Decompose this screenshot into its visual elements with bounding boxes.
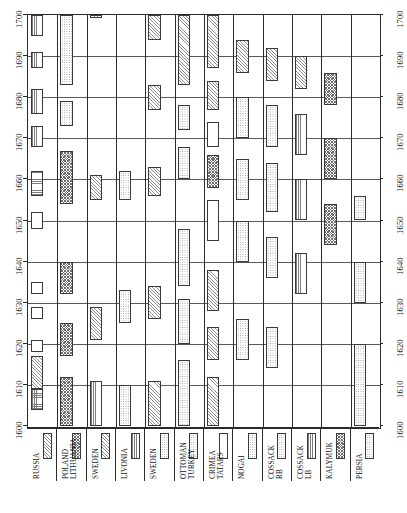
legend-item-russia[interactable]: RUSSIA: [27, 427, 56, 513]
legend-top-rule: [27, 427, 379, 428]
legend-item-sweden[interactable]: SWEDEN: [144, 427, 173, 513]
legend-separator: [350, 427, 351, 481]
year-tick-label-right-1650: 1650: [395, 216, 405, 234]
legend-label-line2: RB: [277, 469, 285, 479]
legend-separator: [262, 427, 263, 481]
legend-separator: [144, 427, 145, 481]
legend-label-line2: LB: [306, 470, 314, 480]
legend-swatch-diagonal-hatch: [43, 433, 52, 459]
legend-item-kalymuk[interactable]: KALYMUK: [320, 427, 349, 513]
legend-separator: [203, 427, 204, 481]
legend-label: LIVONIA: [122, 448, 130, 479]
legend-item-nogai[interactable]: NOGAI: [232, 427, 261, 513]
legend-label-line2: TURKEY: [189, 449, 197, 479]
bar: [354, 196, 366, 221]
legend-label: PERSIA: [357, 453, 365, 479]
legend-swatch-diagonal-hatch: [101, 433, 110, 459]
bar: [354, 344, 366, 426]
legend-item-ottoman[interactable]: OTTOMANTURKEY: [174, 427, 203, 513]
legend-separator: [86, 427, 87, 481]
year-tick-label-right-1620: 1620: [395, 339, 405, 357]
year-tick-label-right-1630: 1630: [395, 298, 405, 316]
legend-swatch-vertical-hatch: [131, 433, 140, 459]
legend-separator: [232, 427, 233, 481]
legend-item-persia[interactable]: PERSIA: [350, 427, 379, 513]
legend-item-sweden[interactable]: SWEDEN: [86, 427, 115, 513]
bar: [354, 262, 366, 303]
legend-item-cossack[interactable]: COSSACKLB: [291, 427, 320, 513]
legend-item-cossack[interactable]: COSSACKRB: [262, 427, 291, 513]
legend-label: SWEDEN: [93, 448, 101, 479]
legend-label: SWEDEN: [151, 448, 159, 479]
chart-root: 1700169016801670166016501640163016201610…: [0, 0, 407, 513]
legend-separator: [320, 427, 321, 481]
legend-label: RUSSIA: [34, 453, 42, 479]
plot-area: [27, 14, 381, 429]
legend-item-livonia[interactable]: LIVONIA: [115, 427, 144, 513]
legend-label-line2: TATARS: [218, 452, 226, 479]
year-tick-label-right-1700: 1700: [395, 10, 405, 28]
legend-item-poland[interactable]: POLANDLITHUANIA: [56, 427, 85, 513]
column-persia: [28, 15, 380, 428]
year-tick-label-right-1610: 1610: [395, 380, 405, 398]
legend-swatch-dotted: [248, 433, 257, 459]
legend: RUSSIAPOLANDLITHUANIASWEDENLIVONIASWEDEN…: [27, 427, 379, 513]
legend-separator: [56, 427, 57, 481]
legend-label: KALYMUK: [327, 442, 335, 479]
legend-swatch-dotted: [277, 433, 286, 459]
year-tick-label-right-1600: 1600: [395, 421, 405, 439]
year-tick-label-right-1670: 1670: [395, 133, 405, 151]
year-tick-label-right-1680: 1680: [395, 92, 405, 110]
legend-label-line2: LITHUANIA: [71, 438, 79, 479]
year-tick-label-right-1640: 1640: [395, 257, 405, 275]
legend-item-crimea[interactable]: CRIMEATATARS: [203, 427, 232, 513]
legend-swatch-dotted: [365, 433, 374, 459]
legend-separator: [115, 427, 116, 481]
legend-swatch-cross-hatch: [336, 433, 345, 459]
year-tick-label-right-1690: 1690: [395, 51, 405, 69]
legend-label: NOGAI: [239, 455, 247, 479]
year-tick-label-right-1660: 1660: [395, 175, 405, 193]
legend-swatch-dotted: [160, 433, 169, 459]
legend-separator: [174, 427, 175, 481]
legend-separator: [291, 427, 292, 481]
legend-swatch-vertical-hatch: [307, 433, 316, 459]
